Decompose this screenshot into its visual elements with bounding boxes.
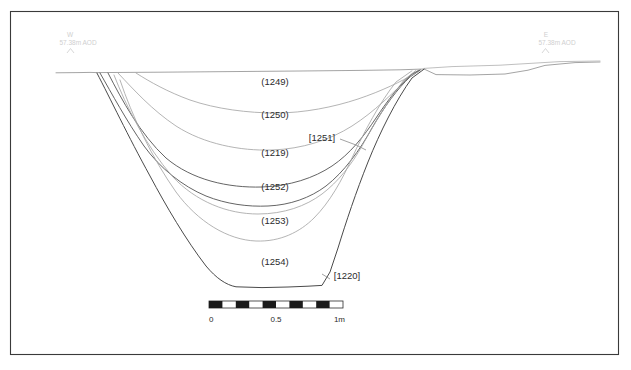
deposit-label-1219: (1219) <box>261 147 288 158</box>
cut-label-1251: [1251] <box>309 132 335 143</box>
ground-surface-east-upper <box>424 61 600 68</box>
section-drawing-figure: W 57.38m AOD E 57.38m AOD <box>0 0 631 370</box>
datum-label-west: 57.38m AOD <box>59 39 97 46</box>
scale-bar-segment <box>236 301 249 308</box>
scale-bar-segment <box>289 301 302 308</box>
scale-bar-segment <box>263 301 276 308</box>
cut-label-1220: [1220] <box>334 270 360 281</box>
datum-label-east: 57.38m AOD <box>538 39 576 46</box>
right-orientation-block: E 57.38m AOD <box>538 31 576 53</box>
scale-tick-label-one-metre: 1m <box>334 315 345 324</box>
deposit-label-1253: (1253) <box>261 215 288 226</box>
benchmark-arrow-icon-west <box>67 49 74 54</box>
deposit-label-1250: (1250) <box>261 109 288 120</box>
ground-surface-east <box>424 62 600 75</box>
scale-bar: 0 0.5 1m <box>209 301 345 324</box>
compass-label-east: E <box>544 31 549 38</box>
deposit-label-1254: (1254) <box>261 256 288 267</box>
scale-tick-label-0: 0 <box>209 315 214 324</box>
ground-surface-over-feature <box>97 69 424 73</box>
left-orientation-block: W 57.38m AOD <box>59 31 97 53</box>
deposit-boundary-1219-base <box>108 70 420 187</box>
compass-label-west: W <box>67 31 74 38</box>
benchmark-arrow-icon-east <box>542 49 549 54</box>
section-drawing-canvas: W 57.38m AOD E 57.38m AOD <box>0 0 631 370</box>
scale-bar-segment <box>209 301 222 308</box>
scale-bar-segment <box>316 301 329 308</box>
deposit-label-1252: (1252) <box>261 181 288 192</box>
deposit-label-1249: (1249) <box>261 76 288 87</box>
scale-tick-label-half: 0.5 <box>270 315 282 324</box>
